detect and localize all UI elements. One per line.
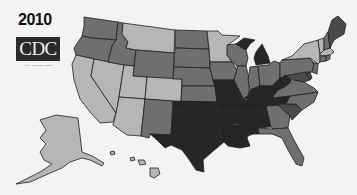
state-FL[interactable]: [258, 128, 304, 166]
state-MT[interactable]: [122, 23, 175, 53]
state-AK[interactable]: [16, 115, 104, 184]
state-WY[interactable]: [133, 50, 174, 79]
state-CT[interactable]: [320, 56, 326, 62]
state-AR[interactable]: [218, 106, 242, 125]
state-RI[interactable]: [326, 55, 330, 61]
state-AZ[interactable]: [113, 97, 145, 136]
state-IA[interactable]: [210, 62, 237, 80]
state-HI[interactable]: [110, 151, 160, 178]
state-WA[interactable]: [82, 17, 118, 40]
state-SD[interactable]: [174, 48, 210, 68]
state-KS[interactable]: [181, 86, 217, 102]
us-choropleth-map: [0, 0, 357, 195]
state-ND[interactable]: [175, 30, 209, 49]
state-NM[interactable]: [141, 99, 173, 138]
state-ME[interactable]: [328, 16, 346, 48]
state-CO[interactable]: [145, 77, 182, 102]
